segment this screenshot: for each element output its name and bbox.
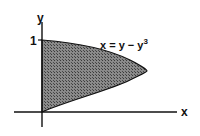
y-axis-label: y xyxy=(37,12,44,24)
equation-exponent: 3 xyxy=(143,37,147,46)
curve-equation-label: x = y − y3 xyxy=(100,36,148,51)
region-diagram xyxy=(0,0,200,136)
shaded-region xyxy=(42,40,147,112)
x-axis-label: x xyxy=(181,106,188,118)
y-tick-label: 1 xyxy=(30,35,37,47)
equation-text: x = y − y xyxy=(100,39,143,51)
